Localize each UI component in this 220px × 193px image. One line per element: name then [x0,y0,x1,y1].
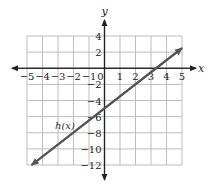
svg-text:2: 2 [95,47,101,58]
coordinate-plane: −5−4−3−2−101234542−2−4−6−8−10−12 x y h(x… [0,0,220,193]
x-axis-label: x [198,62,205,75]
function-line-h [32,48,182,165]
svg-text:1: 1 [117,71,123,82]
svg-text:−10: −10 [80,144,101,155]
svg-text:−8: −8 [87,128,102,139]
svg-text:2: 2 [132,71,138,82]
svg-text:−4: −4 [35,71,50,82]
svg-text:−12: −12 [80,160,101,171]
svg-text:4: 4 [163,71,169,82]
svg-text:−2: −2 [66,71,81,82]
svg-text:−4: −4 [87,96,102,107]
svg-text:−3: −3 [51,71,66,82]
svg-text:−5: −5 [20,71,35,82]
svg-text:4: 4 [95,31,101,42]
function-label: h(x) [55,120,75,131]
svg-text:−2: −2 [87,79,102,90]
y-axis-label: y [101,5,109,18]
svg-text:5: 5 [179,71,185,82]
